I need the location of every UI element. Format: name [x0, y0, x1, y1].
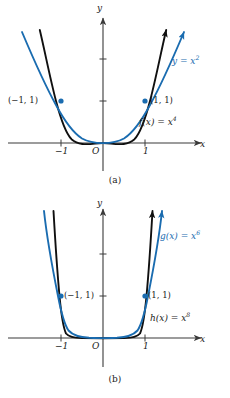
panel-b: g(x) = x6 h(x) = x8 (−1, 1) (1, 1) −1 1 … — [0, 199, 230, 398]
point-label-one-one-a: (1, 1) — [150, 95, 173, 105]
point-label-neg-one-one-a: (−1, 1) — [8, 95, 38, 105]
caption-a: (a) — [0, 175, 230, 185]
x-tick-label-neg-one-a: −1 — [55, 146, 68, 156]
x-tick-label-neg-one-b: −1 — [55, 341, 68, 351]
y-axis-label-b: y — [97, 198, 102, 208]
point-label-neg-one-one-b: (−1, 1) — [64, 290, 94, 300]
point-neg-one-one — [58, 98, 63, 103]
point-label-one-one-b: (1, 1) — [148, 290, 171, 300]
y-axis-label-a: y — [97, 3, 102, 13]
label-h-x-equals-x8: h(x) = x8 — [150, 311, 190, 323]
label-g-x-equals-x6: g(x) = x6 — [160, 229, 200, 241]
point-neg-one-one-b — [58, 293, 63, 298]
label-f-x-equals-x4: f(x) = x4 — [139, 115, 177, 127]
x-tick-label-one-a: 1 — [143, 146, 149, 156]
label-y-equals-x2: y = x2 — [172, 54, 199, 66]
point-one-one — [142, 98, 147, 103]
power-functions-figure: y = x2 f(x) = x4 (−1, 1) (1, 1) −1 1 O x… — [0, 0, 230, 398]
origin-label-b: O — [92, 341, 99, 351]
panel-a: y = x2 f(x) = x4 (−1, 1) (1, 1) −1 1 O x… — [0, 0, 230, 199]
point-one-one-b — [142, 293, 147, 298]
caption-b: (b) — [0, 374, 230, 384]
origin-label-a: O — [92, 146, 99, 156]
x-axis-label-a: x — [200, 139, 205, 149]
x-axis-label-b: x — [200, 334, 205, 344]
x-tick-label-one-b: 1 — [143, 341, 149, 351]
